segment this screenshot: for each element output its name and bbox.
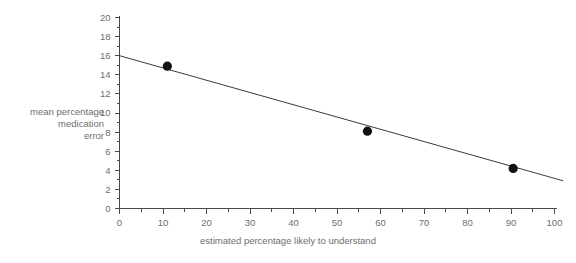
x-tick-label: 90 bbox=[506, 217, 517, 228]
x-tick-label: 80 bbox=[462, 217, 473, 228]
y-axis-title-line: error bbox=[84, 130, 104, 141]
y-tick-label: 18 bbox=[100, 31, 111, 42]
x-tick-label: 0 bbox=[117, 217, 122, 228]
y-tick-label: 16 bbox=[100, 50, 111, 61]
x-tick-label: 50 bbox=[332, 217, 343, 228]
x-tick-label: 30 bbox=[245, 217, 256, 228]
y-tick-label: 20 bbox=[100, 12, 111, 23]
data-point bbox=[509, 164, 518, 173]
y-tick-label: 12 bbox=[100, 88, 111, 99]
x-tick-label: 20 bbox=[201, 217, 212, 228]
y-axis-title-line: medication bbox=[58, 118, 104, 129]
x-tick-label: 60 bbox=[375, 217, 386, 228]
plot-area: 02468101214161820 0102030405060708090100… bbox=[0, 0, 576, 263]
y-tick-label: 0 bbox=[105, 203, 110, 214]
x-tick-label: 10 bbox=[158, 217, 169, 228]
data-point bbox=[163, 62, 172, 71]
x-tick-label: 40 bbox=[288, 217, 299, 228]
x-axis-title: estimated percentage likely to understan… bbox=[200, 235, 376, 246]
x-tick-label: 70 bbox=[419, 217, 430, 228]
scatter-chart: 02468101214161820 0102030405060708090100… bbox=[0, 0, 576, 263]
x-tick-label: 100 bbox=[547, 217, 563, 228]
y-tick-label: 14 bbox=[100, 69, 111, 80]
y-axis-title-line: mean percentage bbox=[30, 106, 104, 117]
y-tick-label: 8 bbox=[105, 127, 110, 138]
y-tick-label: 2 bbox=[105, 184, 110, 195]
y-tick-label: 6 bbox=[105, 146, 110, 157]
data-point bbox=[363, 127, 372, 136]
y-tick-label: 4 bbox=[105, 165, 110, 176]
